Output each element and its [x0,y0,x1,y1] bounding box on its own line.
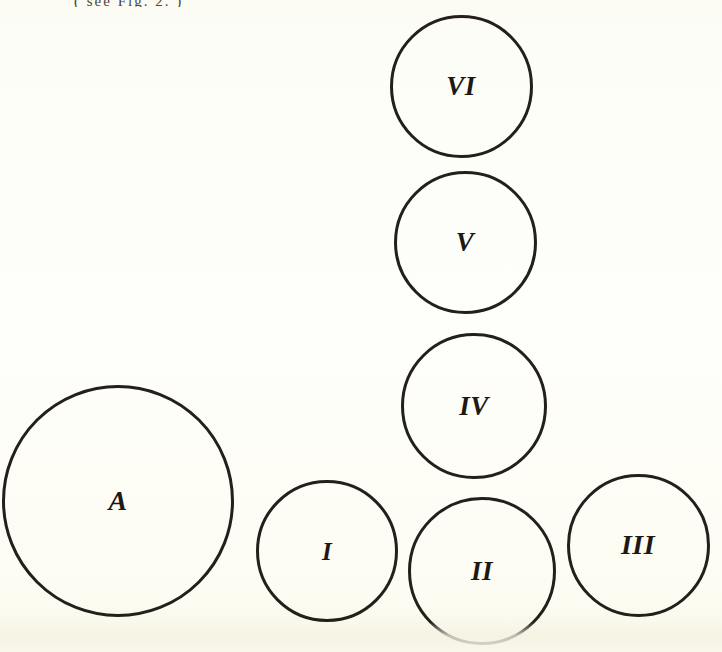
circle-iii-label: III [621,531,655,559]
circle-v: V [394,171,537,314]
circle-iv: IV [401,333,547,479]
cut-off-caption-text: ( see Fig. 2. ) [74,0,242,7]
circle-v-label: V [456,229,475,256]
circle-iv-label: IV [459,393,489,420]
circle-vi-label: VI [446,73,476,100]
circle-a: A [2,385,234,617]
page-edge-band [0,622,722,652]
circle-i-label: I [322,539,332,564]
circle-i: I [256,480,398,622]
circle-a-label: A [108,487,127,515]
circle-ii: II [408,497,556,645]
circle-ii-label: II [471,558,493,585]
circle-iii: III [567,474,710,617]
circle-vi: VI [390,15,533,158]
diagram-plate: ( see Fig. 2. ) VI V IV A I II III [0,0,722,652]
